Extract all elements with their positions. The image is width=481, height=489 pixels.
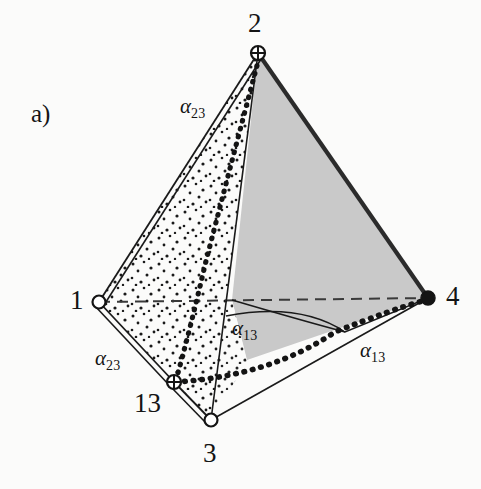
vertex-marker-13 [167,375,181,389]
panel-label-a: a) [31,101,50,126]
angle-label-alpha13-outer: α13 [360,340,385,365]
vertex-label-2: 2 [248,10,262,37]
vertex-marker-2 [251,46,265,60]
alpha-glyph: α [360,338,371,362]
alpha-glyph: α [180,94,191,118]
vertex-label-1: 1 [70,287,84,314]
alpha-glyph: α [232,316,243,340]
alpha-glyph: α [95,346,106,370]
angle-label-alpha23-lower: α23 [95,348,120,373]
angle-label-alpha13-inner: α13 [232,318,257,343]
alpha-subscript: 13 [243,328,257,343]
angle-label-alpha23-upper: α23 [180,96,205,121]
vertex-marker-4 [421,291,435,305]
vertex-marker-3 [205,414,218,427]
alpha-subscript: 13 [371,350,385,365]
alpha-subscript: 23 [106,358,120,373]
figure-panel-a: a) 1 2 3 4 13 α23 α23 α13 α13 [0,0,481,489]
alpha-subscript: 23 [191,106,205,121]
vertex-marker-1 [93,296,106,309]
vertex-label-3: 3 [203,440,217,467]
tetrahedron-figure [0,0,481,489]
vertex-label-4: 4 [446,283,460,310]
vertex-label-13: 13 [134,390,161,417]
